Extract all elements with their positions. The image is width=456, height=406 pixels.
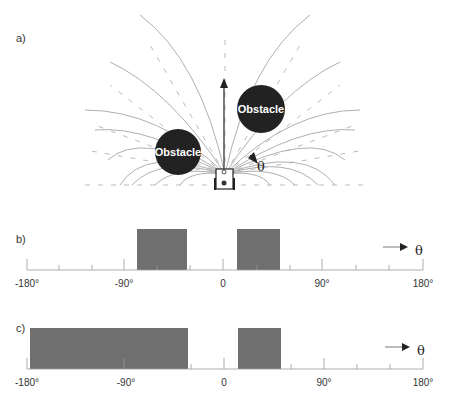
panel-b-theta-arrow: θ [383,243,423,258]
panel-b-bars [137,229,280,270]
svg-text:Obstacle: Obstacle [238,103,284,115]
svg-text:-180°: -180° [15,377,39,388]
panel-b-ticks: -180° -90° 0 90° 180° [15,278,433,289]
svg-text:90°: 90° [314,278,329,289]
panel-b-label: b) [16,233,26,245]
panel-b-axis [27,259,423,270]
svg-text:θ: θ [257,159,265,174]
panel-c-label: c) [16,322,25,334]
panel-a-label: a) [16,32,26,44]
svg-text:θ: θ [417,343,425,358]
svg-text:0: 0 [221,377,227,388]
svg-text:θ: θ [415,243,423,258]
svg-text:90°: 90° [316,377,331,388]
panel-c-bars [30,328,281,369]
robot-icon [214,169,235,190]
svg-text:0: 0 [220,278,226,289]
field-lines [85,15,360,185]
svg-text:-90°: -90° [115,278,133,289]
svg-text:Obstacle: Obstacle [155,146,201,158]
obstacle-left: Obstacle [155,129,201,175]
diagram: a) Obst [0,0,456,406]
svg-text:-90°: -90° [117,377,135,388]
svg-text:180°: 180° [413,278,434,289]
obstacle-right: Obstacle [237,85,285,133]
svg-text:180°: 180° [413,377,434,388]
panel-c-theta-arrow: θ [385,343,425,358]
panel-c-ticks: -180° -90° 0 90° 180° [15,377,433,388]
svg-text:-180°: -180° [15,278,39,289]
